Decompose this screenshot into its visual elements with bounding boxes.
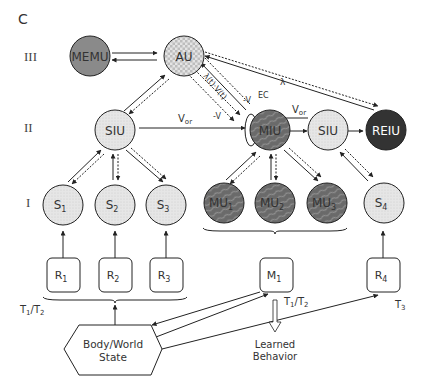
svg-text:AU: AU [176,50,193,64]
learned-behavior-line2: Behavior [253,351,298,362]
node-mu2: MU2 [255,183,295,223]
node-miu: MIU [245,110,290,150]
label-vor-right: Vor [292,104,306,117]
panel-label: C [18,11,28,27]
node-siu-left: SIU [95,110,135,150]
level-label-iii: III [24,49,37,64]
node-mu1: MU1 [204,183,244,223]
svg-text:MEMU: MEMU [71,50,108,64]
node-m1: M1 [260,258,293,292]
learned-behavior-line1: Learned [255,339,295,350]
node-r2: R2 [99,258,132,292]
node-s1: S1 [43,185,83,225]
label-ec: EC [258,91,269,100]
svg-text:State: State [99,351,127,363]
label-lambda-reiu: λ [280,77,286,87]
label-t3: T3 [394,299,406,312]
svg-text:SIU: SIU [318,124,338,138]
brace-motor-units [203,228,347,234]
node-r3: R3 [150,258,183,292]
level-label-ii: II [24,120,33,135]
node-siu-right: SIU [308,110,348,150]
node-s4: S4 [364,183,404,223]
node-au: AU [164,36,204,76]
label-vor-left: Vor [178,113,192,126]
node-r1: R1 [47,258,80,292]
svg-text:REIU: REIU [372,124,400,138]
node-reiu: REIU [366,110,406,150]
label-neg-v-lower: -V [213,112,221,121]
label-t1-t2-mid: T1/T2 [283,296,309,309]
node-s3: S3 [146,185,186,225]
learned-behavior-arrow [269,300,281,332]
node-body-world-state: Body/World State [64,325,162,375]
label-t1-t2-left: T1/T2 [19,304,45,317]
brace-receptors [43,297,187,303]
node-mu3: MU3 [307,183,347,223]
node-memu: MEMU [70,36,110,76]
node-r4: R4 [367,258,400,292]
diagram-canvas: C III II I [0,0,426,391]
level-label-i: I [26,195,30,210]
label-lambda-v: λ(t)·V(t) [201,72,228,102]
svg-text:SIU: SIU [105,124,125,138]
svg-text:Body/World: Body/World [83,338,143,350]
node-s2: S2 [95,185,135,225]
label-neg-v-upper: -V [243,96,251,105]
svg-text:MIU: MIU [259,124,282,138]
